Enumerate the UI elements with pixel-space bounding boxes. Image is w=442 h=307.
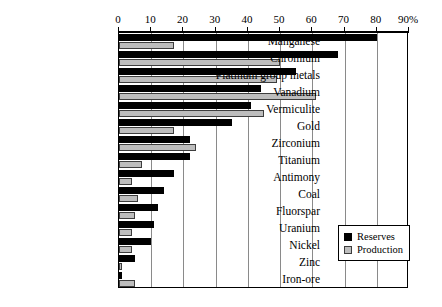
legend-swatch-reserves-icon bbox=[344, 233, 352, 241]
x-axis-tick-label: 50 bbox=[274, 14, 285, 25]
bar-reserves bbox=[119, 238, 151, 245]
x-axis-tick-label: 30 bbox=[209, 14, 220, 25]
bar-reserves bbox=[119, 272, 122, 279]
x-axis-tick-label: 20 bbox=[177, 14, 188, 25]
x-axis-tick-label: 0 bbox=[115, 14, 121, 25]
category-label: Manganese bbox=[268, 35, 320, 47]
bar-production bbox=[119, 144, 196, 151]
bar-production bbox=[119, 246, 132, 253]
category-label: Antimony bbox=[273, 171, 320, 183]
bar-group bbox=[119, 119, 407, 135]
bar-group bbox=[119, 187, 407, 203]
x-axis-tick-label: 10 bbox=[145, 14, 156, 25]
bar-production bbox=[119, 263, 122, 270]
legend-item-production: Production bbox=[344, 243, 403, 256]
bar-group bbox=[119, 204, 407, 220]
legend-label-reserves: Reserves bbox=[357, 230, 395, 243]
chart-legend: Reserves Production bbox=[338, 225, 410, 261]
bar-group bbox=[119, 102, 407, 118]
bar-production bbox=[119, 110, 264, 117]
bar-production bbox=[119, 212, 135, 219]
x-axis-tick-label: 70 bbox=[338, 14, 349, 25]
bar-reserves bbox=[119, 119, 232, 126]
category-label: Chromium bbox=[270, 52, 320, 64]
bar-group bbox=[119, 85, 407, 101]
bar-reserves bbox=[119, 136, 190, 143]
bar-production bbox=[119, 178, 132, 185]
bar-production bbox=[119, 127, 174, 134]
bar-reserves bbox=[119, 85, 261, 92]
bar-group bbox=[119, 153, 407, 169]
bar-reserves bbox=[119, 255, 135, 262]
category-label: Vanadium bbox=[273, 86, 320, 98]
legend-label-production: Production bbox=[357, 243, 403, 256]
bar-reserves bbox=[119, 187, 164, 194]
bar-production bbox=[119, 229, 132, 236]
x-axis-tick-label: 60 bbox=[306, 14, 317, 25]
bar-reserves bbox=[119, 102, 251, 109]
bar-reserves bbox=[119, 204, 158, 211]
category-label: Zirconium bbox=[271, 137, 320, 149]
bar-group bbox=[119, 51, 407, 67]
bar-reserves bbox=[119, 153, 190, 160]
bar-group bbox=[119, 34, 407, 50]
category-label: Gold bbox=[297, 120, 320, 132]
x-axis-tick-label: 80 bbox=[370, 14, 381, 25]
bar-reserves bbox=[119, 170, 174, 177]
category-label: Platinum group metals bbox=[216, 69, 320, 81]
bar-group bbox=[119, 170, 407, 186]
bar-chart: 0102030405060708090% ManganeseChromiumPl… bbox=[0, 0, 442, 307]
bar-group bbox=[119, 272, 407, 288]
category-label: Uranium bbox=[279, 222, 320, 234]
bar-reserves bbox=[119, 221, 154, 228]
x-axis-tick-label: 90% bbox=[398, 14, 418, 25]
x-axis-tick bbox=[408, 27, 409, 33]
category-label: Iron-ore bbox=[282, 273, 320, 285]
category-label: Coal bbox=[298, 188, 320, 200]
category-label: Zinc bbox=[299, 256, 320, 268]
bar-reserves bbox=[119, 34, 377, 41]
bar-production bbox=[119, 280, 135, 287]
bar-production bbox=[119, 161, 142, 168]
x-axis-tick-label: 40 bbox=[241, 14, 252, 25]
category-label: Vermiculite bbox=[266, 103, 320, 115]
bar-production bbox=[119, 195, 138, 202]
legend-swatch-production-icon bbox=[344, 246, 352, 254]
bar-production bbox=[119, 59, 280, 66]
category-label: Nickel bbox=[289, 239, 320, 251]
bar-group bbox=[119, 136, 407, 152]
bar-production bbox=[119, 42, 174, 49]
category-label: Fluorspar bbox=[276, 205, 320, 217]
legend-item-reserves: Reserves bbox=[344, 230, 403, 243]
category-label: Titanium bbox=[278, 154, 320, 166]
